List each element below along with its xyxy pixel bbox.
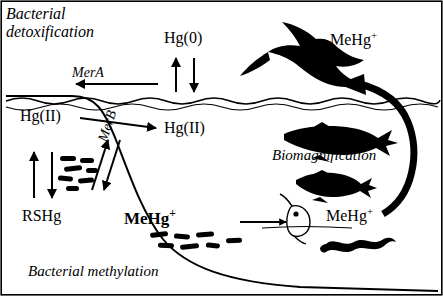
methylmercury-benthic-charge: +: [367, 205, 373, 217]
plankton-silhouette: [280, 194, 310, 244]
methylmercury-bird-charge: +: [371, 29, 377, 41]
hg-zero-label: Hg(0): [164, 30, 202, 46]
methylmercury-benthic-label: MeHg+: [326, 206, 373, 224]
methylmercury-sediment-text: MeHg: [124, 209, 169, 228]
hg-two-mid-label: Hg(II): [164, 120, 205, 136]
shoreline-slope: [6, 96, 438, 291]
bacterial-detoxification-line1: Bacterial: [6, 5, 66, 22]
methylmercury-benthic-text: MeHg: [326, 207, 367, 224]
rshg-label: RSHg: [22, 208, 61, 224]
worm-silhouette: [320, 238, 396, 253]
hg2-left-to-mid-arrow: [80, 118, 156, 128]
water-surface-line: [6, 98, 440, 104]
biomagnification-label: Biomagnification: [272, 148, 376, 163]
hg-two-left-label: Hg(II): [20, 108, 61, 124]
methylmercury-sediment-label: MeHg+: [124, 208, 176, 227]
methylmercury-bird-label: MeHg+: [330, 30, 377, 48]
water-surface-line-secondary: [6, 104, 438, 110]
merA-label: MerA: [72, 66, 104, 80]
methylmercury-sediment-charge: +: [169, 207, 176, 220]
sediment-surface-line: [262, 227, 352, 229]
methylmercury-bird-text: MeHg: [330, 31, 371, 48]
figure-canvas: Bacterial detoxification MerA MerB Hg(0)…: [0, 0, 443, 296]
bacteria-cluster-upper: [58, 156, 98, 191]
bacterial-detoxification-label: Bacterial detoxification: [6, 6, 94, 40]
bacterial-detoxification-line2: detoxification: [6, 24, 94, 40]
small-fish-silhouette: [296, 170, 377, 203]
bacterial-methylation-label: Bacterial methylation: [28, 264, 158, 279]
